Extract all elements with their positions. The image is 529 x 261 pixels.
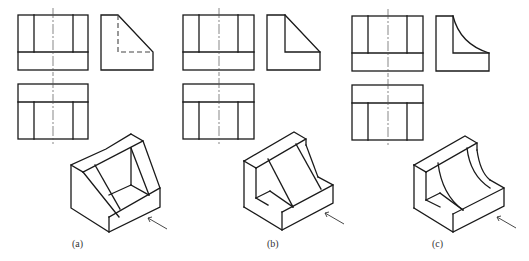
isometric-view-b: [244, 132, 333, 230]
panel-label-b: (b): [267, 238, 279, 250]
front-view-a: [18, 8, 88, 76]
view-arrow-b: [325, 212, 344, 224]
side-view-a: [101, 15, 153, 70]
view-arrow-a: [148, 217, 167, 229]
panel-c: (c): [352, 9, 516, 250]
side-view-c: [436, 16, 489, 71]
front-view-c: [352, 9, 423, 77]
panel-label-a: (a): [72, 238, 83, 250]
top-view-c: [352, 79, 423, 145]
panel-label-c: (c): [432, 238, 443, 250]
drawing-canvas: (a): [0, 0, 529, 261]
isometric-view-a: [71, 134, 160, 232]
view-arrow-c: [497, 216, 516, 228]
front-view-b: [183, 8, 254, 76]
side-view-b: [267, 15, 320, 70]
panel-b: (b): [183, 8, 344, 250]
top-view-b: [183, 78, 254, 144]
isometric-view-c: [414, 136, 504, 232]
top-view-a: [18, 78, 88, 144]
panel-a: (a): [18, 8, 167, 250]
